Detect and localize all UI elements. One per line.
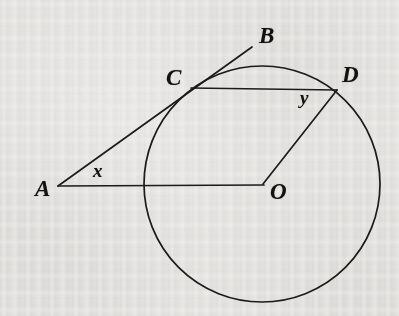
point-label-b: B xyxy=(259,24,274,47)
circle-shape xyxy=(144,66,380,302)
point-label-o: O xyxy=(270,180,287,203)
angle-label-y: y xyxy=(300,88,308,107)
geometry-figure: A B C D O x y xyxy=(0,0,399,316)
angle-label-x: x xyxy=(93,161,103,180)
geometry-drawing xyxy=(0,0,399,316)
tangent-line-ACB xyxy=(58,47,252,186)
point-label-c: C xyxy=(166,66,181,89)
chord-CD xyxy=(191,88,337,90)
point-label-d: D xyxy=(342,63,359,86)
line-AO xyxy=(58,185,264,186)
point-label-a: A xyxy=(35,177,50,200)
